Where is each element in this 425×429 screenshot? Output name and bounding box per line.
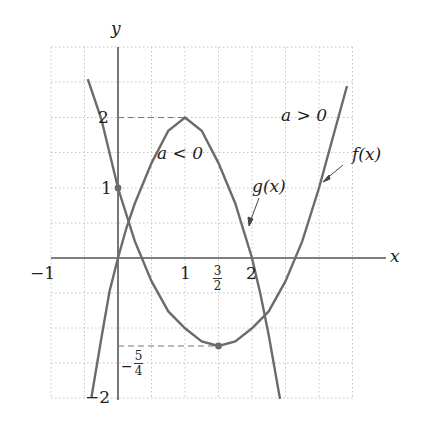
y-tick-neg-sign: − — [121, 359, 133, 373]
x-tick-three-halves: 3 2 — [213, 265, 222, 292]
label-a-negative: a < 0 — [157, 145, 203, 162]
x-axis-label: x — [390, 248, 400, 265]
y-tick-2: 2 — [98, 109, 109, 126]
x-tick-2: 2 — [246, 265, 257, 282]
point-vertex-f — [215, 343, 222, 350]
y-tick-1: 1 — [101, 180, 112, 197]
x-tick-neg1: −1 — [30, 265, 55, 282]
label-g-of-x: g(x) — [252, 178, 286, 195]
label-a-positive: a > 0 — [281, 107, 327, 124]
fraction-numerator: 5 — [135, 350, 143, 362]
fraction-denominator: 4 — [135, 365, 143, 377]
y-axis-label: y — [111, 20, 121, 37]
x-tick-1: 1 — [180, 265, 191, 282]
y-tick-neg-five-fourths: 5 4 — [134, 350, 143, 377]
points — [115, 185, 222, 350]
coordinate-plane — [0, 0, 425, 429]
point-y-intercept — [115, 185, 122, 192]
y-tick-neg2: −2 — [85, 389, 110, 406]
fraction-denominator: 2 — [214, 280, 222, 292]
label-f-of-x: f(x) — [352, 146, 381, 163]
fraction-numerator: 3 — [214, 265, 222, 277]
